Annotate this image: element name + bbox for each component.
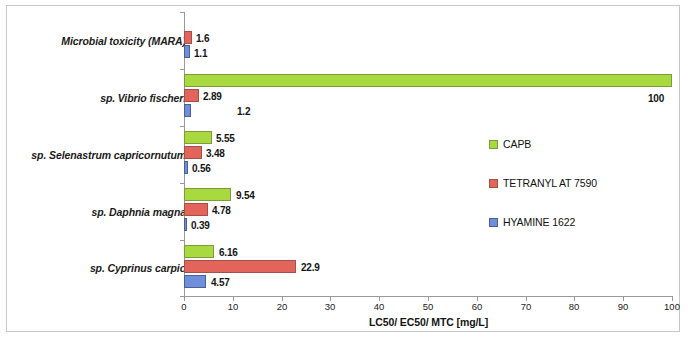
legend-swatch-icon: [489, 218, 498, 227]
bar-value-label: 1.6: [196, 33, 209, 44]
bar-value-label: 0.39: [191, 220, 210, 231]
y-axis-tick: [180, 69, 184, 70]
x-axis-tick-label: 80: [569, 301, 580, 312]
x-axis-tick-label: 10: [228, 301, 239, 312]
x-axis-title: LC50/ EC50/ MTC [mg/L]: [184, 316, 673, 328]
bar-daphnia-magna-hyamine: [184, 218, 187, 231]
bar-daphnia-magna-tetranyl: [184, 203, 208, 216]
x-axis-tick-label: 0: [181, 301, 186, 312]
x-axis-tick-label: 30: [325, 301, 336, 312]
bar-value-label: 1.1: [194, 48, 207, 59]
y-axis-tick: [180, 240, 184, 241]
y-axis-tick: [180, 126, 184, 127]
bar-cyprinus-carpio-hyamine: [184, 275, 206, 288]
bar-value-label: 4.78: [212, 205, 231, 216]
bar-value-label: 9.54: [236, 190, 255, 201]
bar-value-label: 0.56: [192, 163, 211, 174]
bar-selenastrum-capricornutum-tetranyl: [184, 146, 202, 159]
bar-vibrio-fischeri-tetranyl: [184, 89, 199, 102]
bar-daphnia-magna-capb: [184, 188, 231, 201]
bar-selenastrum-capricornutum-hyamine: [184, 161, 188, 174]
bar-value-label: 22.9: [301, 262, 320, 273]
bar-value-label: 4.57: [211, 277, 230, 288]
bar-value-label: 3.48: [206, 148, 225, 159]
x-axis-tick-label: 40: [374, 301, 385, 312]
bar-vibrio-fischeri-capb: [184, 74, 672, 87]
legend-label: CAPB: [503, 138, 531, 150]
bar-value-label: 6.16: [219, 247, 238, 258]
legend-swatch-icon: [489, 140, 498, 149]
bar-value-label: 2.89: [203, 91, 222, 102]
legend-item-tetranyl-at-7590: TETRANYL AT 7590: [489, 177, 597, 189]
bar-microbial-toxicity-mara-hyamine: [184, 45, 190, 58]
bar-cyprinus-carpio-tetranyl: [184, 260, 296, 273]
legend-item-hyamine-1622: HYAMINE 1622: [489, 216, 575, 228]
category-label-cyprinus-carpio: sp. Cyprinus carpio: [90, 262, 186, 274]
x-axis-tick-label: 100: [664, 301, 680, 312]
bar-value-label: 5.55: [216, 133, 235, 144]
figure-border: [6, 5, 680, 332]
category-label-daphnia-magna: sp. Daphnia magna: [91, 206, 186, 218]
x-axis-tick-label: 90: [618, 301, 629, 312]
x-axis-tick-label: 70: [521, 301, 532, 312]
legend-item-capb: CAPB: [489, 138, 531, 150]
category-label-microbial-toxicity-mara: Microbial toxicity (MARA): [61, 35, 186, 47]
y-axis-tick: [180, 183, 184, 184]
category-label-vibrio-fischeri: sp. Vibrio fischeri: [100, 92, 186, 104]
x-axis-tick-label: 60: [472, 301, 483, 312]
category-label-selenastrum-capricornutum: sp. Selenastrum capricornutum: [31, 149, 186, 161]
bar-chart-figure: Microbial toxicity (MARA) sp. Vibrio fis…: [0, 0, 688, 339]
bar-microbial-toxicity-mara-tetranyl: [184, 31, 192, 44]
bar-vibrio-fischeri-hyamine: [184, 104, 191, 117]
bar-value-label: 100: [648, 93, 664, 104]
x-axis-tick-label: 20: [277, 301, 288, 312]
bar-value-label: 1.2: [237, 106, 250, 117]
bar-cyprinus-carpio-capb: [184, 245, 214, 258]
bar-selenastrum-capricornutum-capb: [184, 131, 212, 144]
legend-label: TETRANYL AT 7590: [503, 177, 597, 189]
y-axis-tick: [180, 12, 184, 13]
x-axis-tick-label: 50: [423, 301, 434, 312]
legend-label: HYAMINE 1622: [503, 216, 575, 228]
legend-swatch-icon: [489, 179, 498, 188]
